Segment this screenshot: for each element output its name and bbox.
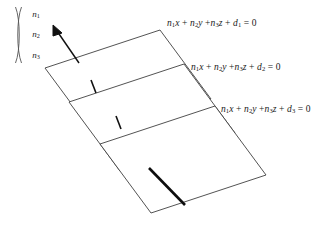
plane-1-equation: n1x + n2y +n3z + d1 = 0: [167, 18, 257, 28]
normal-vector-column: n1 n2 n3: [14, 6, 58, 64]
plane-3-equation: n1x + n2y +n3z + d3 = 0: [221, 104, 311, 114]
normal-component-2: n2: [32, 30, 40, 39]
right-parenthesis-icon: [14, 6, 23, 64]
normal-component-1: n1: [32, 10, 40, 19]
normal-arrow-shaft: [57, 31, 79, 63]
normal-component-3: n3: [32, 51, 40, 60]
planes-diagram: n1 n2 n3 n1x + n2y +n3z + d1 = 0 n1x + n…: [0, 0, 335, 246]
plane-2-equation: n1x + n2y +n3z + d2 = 0: [191, 62, 281, 72]
